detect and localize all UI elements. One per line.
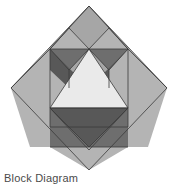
- figure-caption: Block Diagram: [4, 172, 78, 184]
- quilt-block-diagram-page: Block Diagram: [0, 0, 175, 184]
- quilt-shape-layer: [11, 6, 167, 170]
- quilt-block-figure: [0, 0, 175, 184]
- quilt-block-svg: [0, 0, 175, 184]
